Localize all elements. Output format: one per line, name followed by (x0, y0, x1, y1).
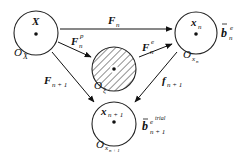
point-xn1 (112, 120, 116, 124)
label-bn1-sup-trial: trial (155, 115, 166, 121)
label-xn1-sub: n + 1 (108, 111, 123, 119)
svg-text:F: F (141, 41, 150, 53)
edge-Fn: F n (60, 14, 172, 29)
intermediate-configuration: O ξ (92, 47, 136, 94)
label-bn1-sup-e: e (150, 118, 153, 126)
label-bn1-sub: n + 1 (150, 128, 165, 136)
label-bn-sup: e (230, 24, 233, 32)
label-Oxn-subsub: n (196, 59, 199, 64)
next-configuration: x n + 1 O x n + 1 b n + 1 e trial (92, 102, 166, 153)
label-X: X (31, 15, 40, 27)
svg-text:n: n (79, 42, 83, 50)
label-Oxi: O (94, 79, 102, 91)
point-xi (112, 67, 116, 71)
svg-text:F: F (107, 14, 116, 26)
label-bn1: b (142, 119, 148, 133)
reference-configuration: X O X (14, 11, 58, 61)
label-Oxn1-subsub: n + 1 (109, 148, 120, 153)
svg-text:n + 1: n + 1 (167, 81, 182, 89)
label-bn: b (221, 26, 227, 40)
edge-Fne: F n e (139, 38, 172, 57)
svg-text:e: e (151, 38, 154, 46)
label-xn-sub: n (198, 23, 202, 31)
svg-text:n + 1: n + 1 (52, 81, 67, 89)
label-xn: x (190, 16, 197, 28)
label-bn-sub: n (229, 34, 233, 42)
edge-Fnp: F n p (58, 32, 91, 57)
label-Oxi-sub: ξ (103, 86, 106, 94)
kinematics-diagram: X O X x n O x n b n e O ξ x n + 1 O x n … (0, 0, 246, 157)
label-Oxn: O (183, 48, 191, 60)
point-xn (194, 32, 198, 36)
svg-text:F: F (43, 74, 52, 86)
svg-text:n: n (150, 48, 154, 56)
edge-fn1: f n + 1 (135, 52, 182, 102)
svg-text:p: p (79, 32, 84, 40)
label-OX: O (14, 46, 22, 58)
edge-Fn1: F n + 1 (43, 52, 94, 102)
label-xn1: x (100, 105, 107, 117)
point-X (34, 32, 38, 36)
svg-text:n: n (116, 21, 120, 29)
current-configuration: x n O x n b n e (175, 12, 233, 64)
svg-text:F: F (70, 35, 79, 47)
label-Oxn1: O (96, 138, 104, 150)
